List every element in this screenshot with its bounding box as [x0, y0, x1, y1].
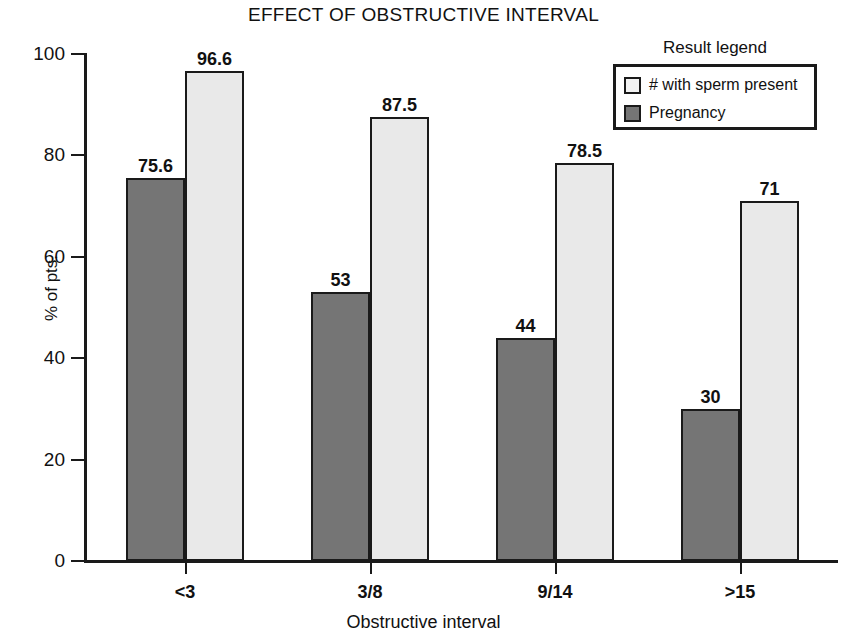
- y-tick-label: 60: [5, 246, 65, 268]
- legend-label-sperm-present: # with sperm present: [649, 76, 798, 94]
- x-tick-mark: [555, 562, 557, 574]
- bar-value-label: 96.6: [197, 49, 232, 70]
- y-tick-label: 40: [5, 347, 65, 369]
- bar-sperm-present[interactable]: 87.5: [370, 117, 429, 561]
- y-tick-mark: [71, 256, 84, 258]
- legend-label-pregnancy: Pregnancy: [649, 104, 726, 122]
- bar-value-label: 30: [700, 387, 720, 408]
- x-tick-label: >15: [685, 582, 795, 603]
- x-axis-title: Obstructive interval: [0, 612, 847, 633]
- y-tick-label: 0: [5, 550, 65, 572]
- x-tick-mark: [740, 562, 742, 574]
- bar-pregnancy[interactable]: 30: [681, 409, 740, 561]
- x-tick-label: <3: [130, 582, 240, 603]
- bar-sperm-present[interactable]: 71: [740, 201, 799, 561]
- legend-box: # with sperm present Pregnancy: [613, 64, 817, 130]
- bar-value-label: 71: [759, 179, 779, 200]
- x-tick-mark: [370, 562, 372, 574]
- plot-area: 75.696.65387.54478.53071: [84, 54, 824, 561]
- y-tick-label: 80: [5, 144, 65, 166]
- x-tick-label: 3/8: [315, 582, 425, 603]
- bar-pregnancy[interactable]: 44: [496, 338, 555, 561]
- y-tick-mark: [71, 53, 84, 55]
- y-tick-mark: [71, 560, 84, 562]
- bar-value-label: 78.5: [567, 141, 602, 162]
- bar-sperm-present[interactable]: 96.6: [185, 71, 244, 561]
- legend-swatch-light-icon: [624, 77, 641, 94]
- y-tick-mark: [71, 154, 84, 156]
- x-tick-mark: [185, 562, 187, 574]
- bar-pregnancy[interactable]: 75.6: [126, 178, 185, 561]
- bar-value-label: 87.5: [382, 95, 417, 116]
- bar-chart-figure: EFFECT OF OBSTRUCTIVE INTERVAL % of pts.…: [0, 0, 847, 639]
- y-tick-mark: [71, 357, 84, 359]
- bar-pregnancy[interactable]: 53: [311, 292, 370, 561]
- legend-item-sperm-present[interactable]: # with sperm present: [624, 71, 808, 99]
- bar-sperm-present[interactable]: 78.5: [555, 163, 614, 561]
- bar-value-label: 44: [515, 316, 535, 337]
- legend-title: Result legend: [613, 38, 817, 58]
- chart-title: EFFECT OF OBSTRUCTIVE INTERVAL: [0, 4, 847, 26]
- legend-swatch-dark-icon: [624, 105, 641, 122]
- y-tick-label: 100: [5, 43, 65, 65]
- y-tick-label: 20: [5, 449, 65, 471]
- x-tick-label: 9/14: [500, 582, 610, 603]
- bar-value-label: 53: [330, 270, 350, 291]
- bar-value-label: 75.6: [138, 156, 173, 177]
- legend-item-pregnancy[interactable]: Pregnancy: [624, 99, 808, 127]
- y-tick-mark: [71, 459, 84, 461]
